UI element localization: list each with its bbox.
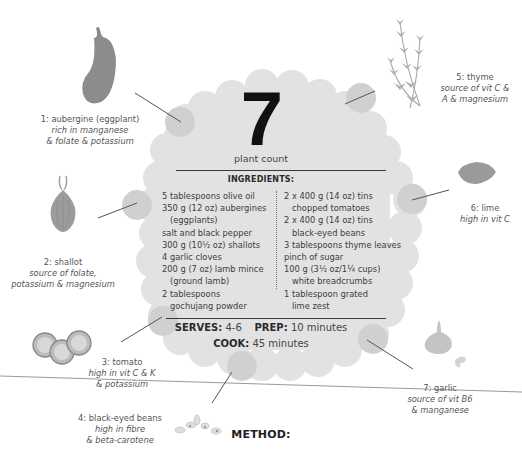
ingredient-item: gochujang powder — [162, 300, 266, 312]
ingredient-item: salt and black pepper — [162, 227, 266, 239]
ingredient-item: 200 g (7 oz) lamb mince — [162, 263, 266, 275]
bottom-rule — [166, 318, 386, 319]
ingredient-item: 300 g (10½ oz) shallots — [162, 239, 266, 251]
ingredients-right-column: 2 x 400 g (14 oz) tins chopped tomatoes … — [284, 190, 401, 312]
anchor-beans — [227, 351, 257, 381]
ingredient-item: 100 g (3½ oz/1¼ cups) — [284, 263, 401, 275]
column-divider — [276, 191, 277, 289]
ingredient-item: (eggplants) — [162, 214, 266, 226]
cook-label: COOK: — [213, 338, 249, 349]
leader-beans — [212, 372, 232, 403]
ingredient-item: chopped tomatoes — [284, 202, 401, 214]
anchor-shallot — [122, 190, 152, 220]
ingredient-item: 350 g (12 oz) aubergines — [162, 202, 266, 214]
top-rule — [176, 170, 386, 171]
plant-label-thyme: 5: thyme source of vit C & A & magnesium — [428, 72, 522, 105]
ingredient-item: 2 x 400 g (14 oz) tins — [284, 190, 401, 202]
ingredient-item: 4 garlic cloves — [162, 251, 266, 263]
ingredient-item: 2 tablespoons — [162, 288, 266, 300]
serves-label: SERVES: — [175, 322, 223, 333]
ingredients-title: INGREDIENTS: — [0, 175, 522, 184]
plant-label-shallot: 2: shallot source of folate, potassium &… — [0, 257, 126, 290]
ingredient-item: black-eyed beans — [284, 227, 401, 239]
cook-value: 45 minutes — [252, 338, 308, 349]
ingredient-item: 2 x 400 g (14 oz) tins — [284, 214, 401, 226]
plant-label-tomato: 3: tomato high in vit C & K & potassium — [70, 357, 174, 390]
prep-label: PREP: — [254, 322, 287, 333]
method-heading: METHOD: — [0, 428, 522, 441]
serves-prep-line: SERVES: 4-6 PREP: 10 minutes — [0, 322, 522, 333]
shallot-icon — [51, 176, 76, 232]
plant-count-label: plant count — [0, 153, 522, 164]
plant-label-garlic: 7: garlic source of vit B6 & manganese — [402, 383, 478, 416]
ingredients-left-column: 5 tablespoons olive oil 350 g (12 oz) au… — [162, 190, 266, 312]
cook-line: COOK: 45 minutes — [0, 338, 522, 349]
prep-value: 10 minutes — [291, 322, 347, 333]
plant-label-lime: 6: lime high in vit C — [448, 203, 522, 225]
ingredient-item: 5 tablespoons olive oil — [162, 190, 266, 202]
ingredient-item: lime zest — [284, 300, 401, 312]
ingredient-item: pinch of sugar — [284, 251, 401, 263]
ingredient-item: 3 tablespoons thyme leaves — [284, 239, 401, 251]
serves-value: 4-6 — [225, 322, 241, 333]
plant-label-aubergine: 1: aubergine (eggplant) rich in manganes… — [30, 114, 150, 147]
ingredient-item: 1 tablespoon grated — [284, 288, 401, 300]
anchor-lime — [397, 184, 427, 214]
ingredient-item: white breadcrumbs — [284, 275, 401, 287]
ingredient-item: (ground lamb) — [162, 275, 266, 287]
